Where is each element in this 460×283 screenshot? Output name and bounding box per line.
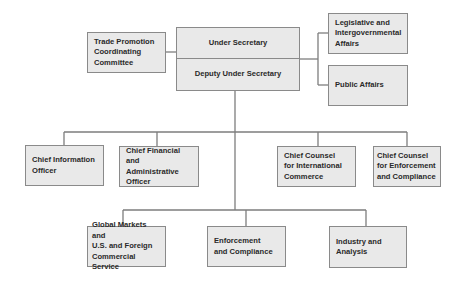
box-global-markets: Global Markets and U.S. and Foreign Comm…: [87, 226, 166, 267]
box-trade-promotion-committee: Trade Promotion Coordinating Committee: [87, 32, 166, 73]
box-chief-counsel-enforcement: Chief Counsel for Enforcement and Compli…: [373, 146, 441, 187]
box-label: Legislative and Intergovernmental Affair…: [335, 18, 401, 50]
box-deputy-under-secretary: Deputy Under Secretary: [176, 58, 300, 91]
box-chief-financial-officer: Chief Financial and Administrative Offic…: [119, 146, 199, 187]
org-chart: Trade Promotion Coordinating Committee U…: [0, 0, 460, 283]
box-label: Chief Counsel for Enforcement and Compli…: [377, 151, 436, 183]
box-label: Chief Information Officer: [32, 155, 95, 176]
box-label: Deputy Under Secretary: [195, 69, 282, 80]
box-label: Trade Promotion Coordinating Committee: [94, 37, 154, 69]
box-chief-counsel-international: Chief Counsel for International Commerce: [277, 146, 356, 187]
box-label: Industry and Analysis: [336, 237, 382, 258]
box-public-affairs: Public Affairs: [328, 65, 408, 106]
box-label: Chief Financial and Administrative Offic…: [126, 146, 192, 188]
box-enforcement-compliance: Enforcement and Compliance: [207, 226, 286, 267]
box-label: Chief Counsel for International Commerce: [284, 151, 342, 183]
box-label: Global Markets and U.S. and Foreign Comm…: [92, 220, 161, 273]
box-label: Public Affairs: [335, 80, 384, 91]
box-under-secretary: Under Secretary: [176, 27, 300, 59]
box-chief-information-officer: Chief Information Officer: [25, 145, 104, 186]
box-label: Enforcement and Compliance: [214, 236, 273, 257]
box-industry-analysis: Industry and Analysis: [329, 226, 407, 268]
box-legislative-affairs: Legislative and Intergovernmental Affair…: [328, 13, 408, 54]
box-label: Under Secretary: [209, 38, 268, 49]
